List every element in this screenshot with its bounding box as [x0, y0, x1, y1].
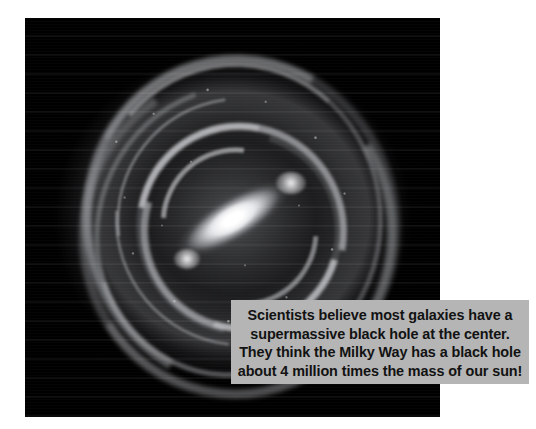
caption-line-2: supermassive black hole at the center.: [250, 325, 509, 344]
page-canvas: Scientists believe most galaxies have a …: [0, 0, 536, 429]
caption-line-4: about 4 million times the mass of our su…: [238, 362, 522, 381]
caption-line-1: Scientists believe most galaxies have a: [248, 306, 513, 325]
fact-caption-box: Scientists believe most galaxies have a …: [231, 300, 529, 384]
caption-line-3: They think the Milky Way has a black hol…: [239, 343, 521, 362]
